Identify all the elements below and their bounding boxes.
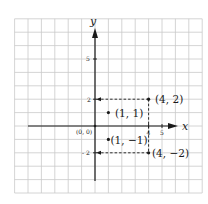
coordinate-plane-diagram: x y 4 5 5 2 - 2 (0, 0) (4, 2) (1, 1) (1,… xyxy=(0,0,208,204)
point-4-neg2 xyxy=(147,151,150,154)
y-axis-arrow-icon xyxy=(92,28,98,38)
y-tick-label-5: 5 xyxy=(86,55,90,62)
point-label-4-neg2: (4, −2) xyxy=(152,147,189,159)
x-tick-label-5: 5 xyxy=(160,129,164,136)
point-label-1-1: (1, 1) xyxy=(115,107,143,119)
point-label-1-neg1: (1, −1) xyxy=(111,134,148,146)
x-axis-arrow-icon xyxy=(168,123,178,129)
grid xyxy=(15,19,203,193)
x-axis-label: x xyxy=(182,120,189,133)
origin-point xyxy=(94,125,97,128)
projection-arrow-icon xyxy=(96,151,101,155)
origin-label: (0, 0) xyxy=(76,128,92,135)
projection-arrow-icon xyxy=(96,97,101,101)
y-axis-label: y xyxy=(89,15,97,28)
point-label-4-2: (4, 2) xyxy=(155,93,183,105)
point-1-1 xyxy=(107,111,110,114)
point-4-2 xyxy=(147,98,150,101)
y-tick-label-2: 2 xyxy=(87,96,91,103)
y-tick-label-neg2: - 2 xyxy=(82,149,90,156)
